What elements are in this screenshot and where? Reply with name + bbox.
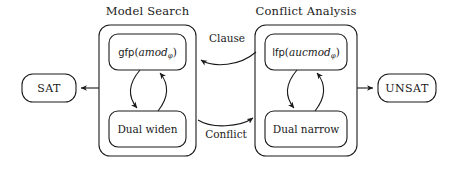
arrow-conflict-left-to-right bbox=[198, 118, 253, 126]
conflict-analysis-group-box bbox=[255, 25, 357, 156]
gfp-argument: amod bbox=[139, 46, 168, 58]
lfp-close-paren: ) bbox=[336, 46, 340, 58]
internal-loop-arrows-left bbox=[131, 70, 167, 111]
model-search-group-title: Model Search bbox=[99, 6, 196, 18]
dual-narrow-node-label: Dual narrow bbox=[265, 124, 347, 135]
arrow-dual-widen-to-gfp bbox=[158, 73, 167, 111]
sat-terminal-label: SAT bbox=[22, 83, 76, 94]
clause-edge-label: Clause bbox=[196, 33, 258, 44]
arrow-lfp-to-dual-narrow bbox=[288, 70, 297, 108]
gfp-function-name: gfp bbox=[118, 47, 134, 58]
arrow-dual-narrow-to-lfp bbox=[315, 73, 324, 111]
unsat-terminal-label: UNSAT bbox=[378, 83, 436, 94]
gfp-close-paren: ) bbox=[173, 46, 177, 58]
diagram-canvas: Model Search Conflict Analysis gfp(amodφ… bbox=[0, 0, 450, 170]
lfp-argument: aucmod bbox=[289, 46, 331, 58]
lfp-function-name: lfp bbox=[272, 47, 285, 58]
conflict-edge-label: Conflict bbox=[194, 129, 258, 140]
arrow-gfp-to-dual-widen bbox=[131, 70, 140, 108]
conflict-analysis-group-title: Conflict Analysis bbox=[250, 6, 362, 18]
gfp-amod-node-label: gfp(amodφ) bbox=[109, 47, 186, 60]
cross-group-arrows bbox=[198, 52, 256, 126]
dual-widen-node-label: Dual widen bbox=[109, 124, 186, 135]
internal-loop-arrows-right bbox=[288, 70, 324, 111]
model-search-group-box bbox=[99, 25, 196, 156]
lfp-aucmod-node-label: lfp(aucmodφ) bbox=[265, 47, 347, 60]
arrow-clause-right-to-left bbox=[201, 52, 256, 65]
